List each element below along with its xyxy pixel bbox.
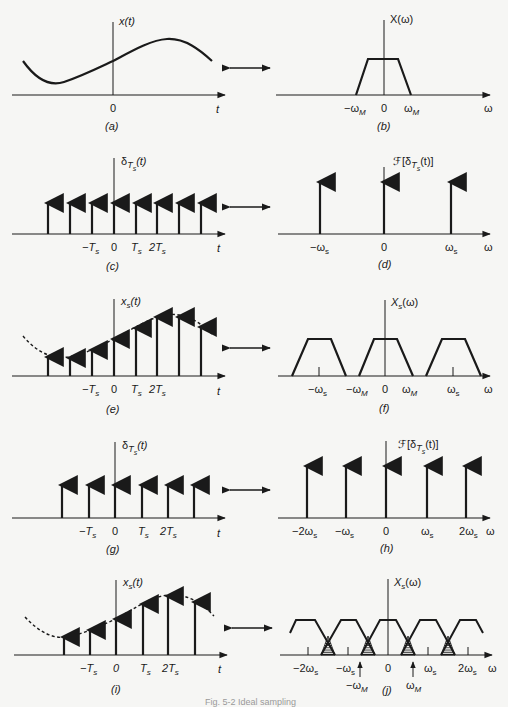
x-label: t <box>217 385 221 397</box>
x-label: t <box>217 242 221 254</box>
panel-d: ℱ[δTs(t)] −ωs 0 ωs ω (d) <box>278 155 493 270</box>
tick-ws: ωs <box>421 525 434 540</box>
impulse-train <box>62 485 194 518</box>
frequency-impulse-train <box>320 182 451 234</box>
tick-minus-Ts: −Ts <box>82 241 99 256</box>
tick-wM: ωM <box>402 383 418 398</box>
tick-2Ts: 2Ts <box>159 525 177 540</box>
tick-zero: 0 <box>381 241 387 253</box>
tick-2Ts: 2Ts <box>148 241 166 256</box>
marker-minus-wM: −ωM <box>346 679 368 694</box>
tick-minus-Ts: −Ts <box>79 525 96 540</box>
tick-2Ts: 2Ts <box>161 662 179 677</box>
tick-zero: 0 <box>112 525 118 537</box>
tick-zero: 0 <box>385 662 391 674</box>
tick-ws: ωs <box>424 662 437 677</box>
x-label: ω <box>488 662 497 674</box>
panel-j: Xs(ω) −2ωs −ωs 0 ωs 2ωs ω −ωM ωM (j) <box>280 576 497 696</box>
y-label: ℱ[δTs(t)] <box>393 155 434 172</box>
x-label: ω <box>484 241 493 253</box>
overlapping-replicated-spectra <box>290 620 483 655</box>
y-label: ℱ[δTs(t)] <box>398 438 439 455</box>
y-label: δTs(t) <box>122 439 148 456</box>
tick-minus-wM: −ωM <box>346 383 368 398</box>
tick-zero: 0 <box>113 662 120 674</box>
ws-ticks <box>319 367 453 376</box>
tick-2ws: 2ωs <box>458 662 477 677</box>
tick-minus-2ws: −2ωs <box>293 662 318 677</box>
impulse-train <box>48 203 201 234</box>
tick-zero: 0 <box>381 102 387 114</box>
tick-zero: 0 <box>111 241 117 253</box>
tick-minus-2ws: −2ωs <box>292 525 317 540</box>
panel-label: (d) <box>378 258 392 270</box>
panel-a: x(t) 0 t (a) <box>12 15 225 132</box>
tick-Ts: Ts <box>140 662 151 677</box>
tick-ws: ωs <box>445 241 458 256</box>
y-label: δTs(t) <box>121 155 147 172</box>
panel-label: (e) <box>106 403 120 415</box>
tick-minus-wM: −ωM <box>344 102 366 117</box>
tick-2Ts: 2Ts <box>148 383 166 398</box>
panel-g: δTs(t) −Ts 0 Ts 2Ts t (g) <box>12 439 225 555</box>
x-label: ω <box>486 525 495 537</box>
panel-label: (i) <box>111 683 121 695</box>
tick-zero: 0 <box>382 383 388 395</box>
tick-minus-ws: −ωs <box>336 662 355 677</box>
x-label: t <box>218 663 222 675</box>
tick-2ws: 2ωs <box>459 525 478 540</box>
tick-Ts: Ts <box>131 241 142 256</box>
panel-i: xs(t) −Ts 0 Ts 2Ts t (i) <box>14 576 227 695</box>
y-label: X(ω) <box>390 13 413 25</box>
tick-minus-ws: −ωs <box>310 241 329 256</box>
envelope-dashed-curve <box>25 595 214 638</box>
panel-label: (b) <box>377 120 391 132</box>
y-label: x(t) <box>118 15 135 27</box>
sampling-figure: x(t) 0 t (a) X(ω) −ωM 0 ωM ω (b) δTs(t) <box>0 0 508 707</box>
weighted-impulses <box>48 317 201 376</box>
tick-minus-Ts: −Ts <box>80 662 97 677</box>
tick-Ts: Ts <box>131 383 142 398</box>
tick-minus-ws: −ωs <box>335 525 354 540</box>
panel-label: (g) <box>106 543 120 555</box>
panel-e: xs(t) −Ts 0 Ts 2Ts t (e) <box>12 295 225 415</box>
y-label: Xs(ω) <box>393 576 421 591</box>
tick-minus-ws: −ωs <box>308 383 327 398</box>
panel-label: (h) <box>380 542 394 554</box>
panel-label: (j) <box>382 684 392 696</box>
tick-ws: ωs <box>447 383 460 398</box>
frequency-impulse-train <box>307 466 466 518</box>
envelope-dashed-curve <box>23 314 212 357</box>
panel-b: X(ω) −ωM 0 ωM ω (b) <box>276 13 493 132</box>
panel-c: δTs(t) −Ts 0 Ts 2Ts t (c) <box>12 155 225 272</box>
x-label: ω <box>484 102 493 114</box>
tick-minus-Ts: −Ts <box>82 383 99 398</box>
y-label: Xs(ω) <box>390 296 418 311</box>
tick-zero: 0 <box>110 102 116 114</box>
x-label: ω <box>484 383 493 395</box>
y-label: xs(t) <box>122 576 143 591</box>
x-label: t <box>217 527 221 539</box>
tick-zero: 0 <box>383 525 389 537</box>
panel-label: (c) <box>106 260 119 272</box>
tick-wM: ωM <box>404 102 420 117</box>
tick-Ts: Ts <box>138 525 149 540</box>
panel-label: (f) <box>379 402 390 414</box>
panel-h: ℱ[δTs(t)] −2ωs −ωs 0 ωs 2ωs ω (h) <box>278 438 495 554</box>
panel-f: Xs(ω) −ωs −ωM 0 ωM ωs ω (f) <box>278 296 493 414</box>
figure-caption: Fig. 5-2 Ideal sampling <box>205 697 296 707</box>
marker-wM: ωM <box>406 679 422 694</box>
y-label: xs(t) <box>120 295 141 310</box>
panel-label: (a) <box>105 120 119 132</box>
x-label: t <box>216 103 220 115</box>
weighted-impulses <box>64 596 195 655</box>
signal-curve <box>23 39 212 83</box>
tick-zero: 0 <box>111 383 117 395</box>
